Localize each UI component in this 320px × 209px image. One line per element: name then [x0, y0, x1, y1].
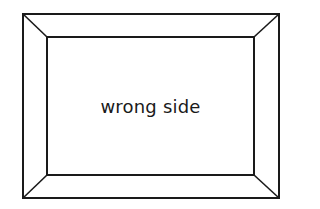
bevel-top-right	[254, 14, 279, 37]
frame-label: wrong side	[47, 37, 254, 175]
bevel-bottom-left	[23, 175, 47, 198]
bevel-top-left	[23, 14, 47, 37]
bevel-bottom-right	[254, 175, 279, 198]
